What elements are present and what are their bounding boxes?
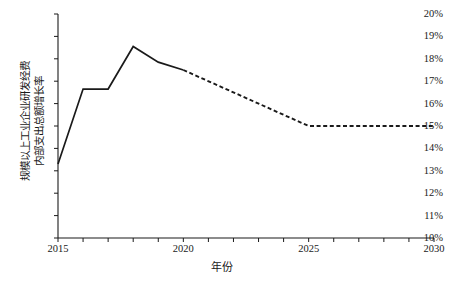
series-line-historical [58, 46, 183, 164]
series-line-forecast [183, 70, 434, 126]
x-axis-title: 年份 [0, 258, 443, 274]
